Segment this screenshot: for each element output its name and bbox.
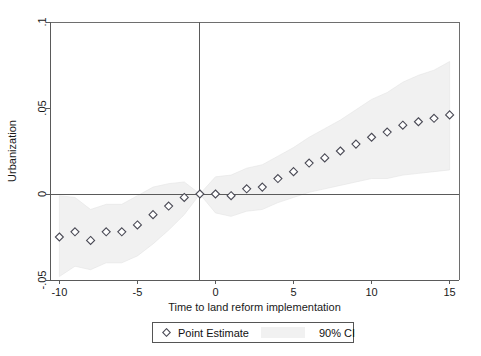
x-tick-label: 5: [290, 286, 296, 298]
ci-band-post: [200, 62, 450, 217]
y-tick-label: -.05: [36, 271, 48, 290]
x-tick-label: 0: [212, 286, 218, 298]
legend-label-point-estimate: Point Estimate: [178, 327, 249, 339]
x-tick-label: 15: [444, 286, 456, 298]
chart-legend: Point Estimate 90% CI: [152, 322, 354, 343]
legend-entry-ci: 90% CI: [249, 323, 355, 342]
ci-band-swatch-icon: [261, 327, 305, 338]
ci-band-pre: [59, 182, 199, 277]
y-tick-label: 0: [36, 191, 48, 197]
x-tick-label: -5: [133, 286, 143, 298]
x-tick-label: 10: [365, 286, 377, 298]
y-tick-label: .1: [36, 17, 48, 26]
chart-figure: -.050.05.1-10-5051015Time to land reform…: [0, 0, 481, 356]
event-study-plot: -.050.05.1-10-5051015Time to land reform…: [0, 0, 481, 356]
x-tick-label: -10: [51, 286, 67, 298]
legend-label-ci: 90% CI: [319, 327, 355, 339]
legend-entry-point-estimate: Point Estimate: [153, 323, 249, 342]
x-axis-title: Time to land reform implementation: [168, 301, 341, 313]
y-tick-label: .05: [36, 100, 48, 115]
y-axis-title: Urbanization: [6, 120, 18, 182]
open-diamond-icon: [158, 328, 174, 337]
